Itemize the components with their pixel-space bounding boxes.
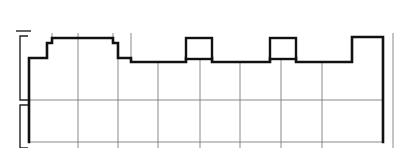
column-right bbox=[270, 38, 296, 59]
columns-group bbox=[186, 38, 296, 59]
bracket-lower bbox=[20, 105, 28, 148]
bracket-upper bbox=[20, 36, 28, 100]
floor-plan-canvas: Building Floor Plan Outline bbox=[0, 0, 407, 148]
column-left bbox=[186, 38, 212, 59]
floor-plan-svg bbox=[0, 0, 407, 148]
stub-lines-group bbox=[52, 33, 393, 148]
